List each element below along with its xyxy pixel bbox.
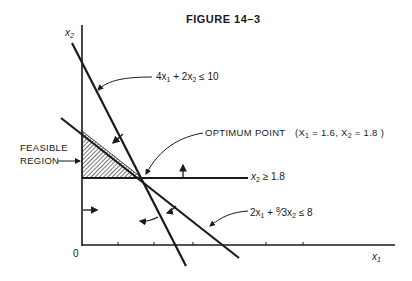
lp-diagram-canvas <box>0 0 412 281</box>
callout-leader-c2 <box>210 211 248 226</box>
constraint-label-c3: x2 ≥ 1.8 <box>251 172 285 183</box>
opt-mid: = 1.6, X <box>309 127 347 138</box>
c2-relation: ≤ 8 <box>296 207 313 218</box>
constraint-label-c2: 2x1 + 8⁄3x2 ≤ 8 <box>250 206 313 219</box>
c1-term-a: 4x <box>156 71 167 82</box>
optimum-point-label: OPTIMUM POINT <box>205 128 285 138</box>
direction-arrow-c2 <box>167 206 176 213</box>
y-axis-label-sub: 2 <box>70 32 74 39</box>
callout-leader-c1 <box>98 77 152 90</box>
feasible-region-label-line1: FEASIBLE <box>20 143 68 153</box>
feasible-region-label-line2: REGION <box>20 156 59 166</box>
constraint-label-c1: 4x1 + 2x2 ≤ 10 <box>156 72 219 83</box>
c2-plus: + <box>264 207 275 218</box>
c1-relation: ≤ 10 <box>196 71 218 82</box>
c1-term-b: + 2x <box>170 71 192 82</box>
opt-open: (X <box>295 127 305 138</box>
feasible-region-shading <box>82 131 142 178</box>
y-axis-label: x2 <box>65 28 74 39</box>
optimum-point-coords: (X1 = 1.6, X2 = 1.8 ) <box>295 128 384 139</box>
constraint-line-2x1-8-3x2 <box>61 118 239 258</box>
c2-frac-den: ⁄3 <box>280 207 287 218</box>
figure-title: FIGURE 14–3 <box>186 14 261 25</box>
x-axis-label: x1 <box>372 252 381 263</box>
opt-close: = 1.8 ) <box>352 127 384 138</box>
callout-leader-optimum <box>146 133 203 174</box>
c2-term-a: 2x <box>250 207 261 218</box>
x-axis-label-sub: 1 <box>377 256 381 263</box>
direction-arrow-c1-b <box>140 217 158 221</box>
c3-relation: ≥ 1.8 <box>260 171 285 182</box>
origin-label: 0 <box>73 249 79 259</box>
